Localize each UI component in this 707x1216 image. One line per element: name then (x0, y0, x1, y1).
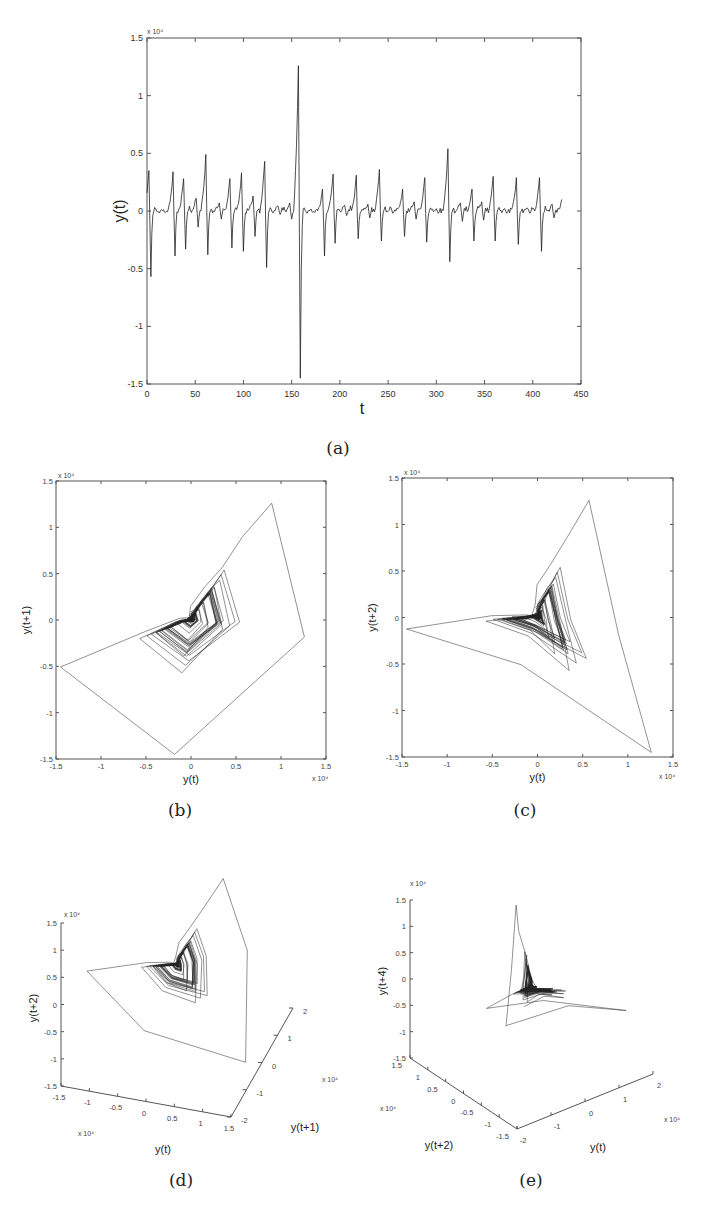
y-exponent-label: x 10⁴ (147, 28, 163, 35)
x-tick-label: 300 (429, 389, 444, 399)
y-axis-label: y(t+2) (366, 603, 378, 631)
x-axis-tick-label: 1.5 (224, 1124, 234, 1133)
y-tick-label: -1 (135, 321, 143, 331)
y-tick-label: -1.5 (127, 379, 143, 389)
y-axis-label: y(t+2) (425, 1139, 453, 1151)
z-axis-tick-label: 0 (402, 975, 406, 984)
trajectory (487, 905, 626, 1026)
x-tick-label: -1 (444, 760, 451, 769)
x-axis-label: y(t) (590, 1141, 606, 1153)
x-tick-label: 250 (381, 389, 396, 399)
z-axis-label: y(t+4) (376, 967, 388, 995)
y-tick-label: -1.5 (386, 753, 399, 762)
x-exponent-label: x 10⁴ (78, 1130, 94, 1137)
x-axis-tick-label: 0 (142, 1109, 146, 1118)
x-tick-label: -1 (98, 762, 105, 771)
z-axis-tick-label: 1 (53, 946, 57, 955)
x-exponent-label: x 10⁴ (664, 1116, 680, 1123)
x-tick-label: -0.5 (140, 762, 153, 771)
x-exponent-label: x 10⁴ (312, 775, 328, 782)
caption-c: (c) (514, 800, 537, 820)
y-tick-label: 0.5 (389, 567, 399, 576)
panel-e-3d-portrait: -1.5-1-0.500.511.5-2-1012-1.5-1-0.500.51… (376, 880, 680, 1153)
x-axis-label: y(t) (183, 773, 199, 785)
y-exponent-label: x 10⁴ (380, 1105, 396, 1112)
y-tick-label: 0 (395, 614, 399, 623)
z-axis-tick-label: 0.5 (47, 973, 57, 982)
x-axis-label: y(t) (155, 1143, 171, 1155)
z-axis-tick-label: -1 (50, 1055, 57, 1064)
y-tick-label: -0.5 (40, 662, 53, 671)
trajectory (61, 503, 305, 754)
y-tick-label: 0.5 (43, 570, 53, 579)
y-axis-tick-label: 0 (451, 1097, 455, 1106)
y-axis-label: y(t+1) (20, 606, 32, 634)
y-tick-label: 0 (138, 206, 143, 216)
series-line-y (147, 66, 562, 379)
x-tick-label: 450 (573, 389, 588, 399)
x-axis-tick-label: -1 (84, 1098, 91, 1107)
z-exponent-label: x 10⁴ (410, 880, 426, 887)
y-axis-tick-label: -1 (257, 1089, 264, 1098)
x-axis-tick-label: -1 (554, 1122, 561, 1131)
y-exponent-label: x 10⁴ (404, 469, 420, 476)
y-tick-label: 1.5 (389, 474, 399, 483)
z-axis-tick-label: -1.5 (44, 1082, 57, 1091)
y-axis-tick-label: 1 (416, 1073, 420, 1082)
y-axis-tick-label: 1 (288, 1034, 292, 1043)
y-axis-tick-label: -1 (484, 1120, 491, 1129)
y-axis-tick-label: 0 (272, 1062, 276, 1071)
x-tick-label: 1 (626, 760, 630, 769)
caption-a: (a) (326, 438, 349, 458)
caption-d: (d) (169, 1170, 193, 1190)
panel-d-3d-portrait: -1.5-1-0.500.511.5-1.5-1-0.500.511.5-2-1… (27, 879, 338, 1156)
x-tick-label: 0.5 (577, 760, 587, 769)
z-axis-tick-label: 0.5 (396, 949, 406, 958)
x-axis-tick-label: 1 (623, 1095, 627, 1104)
y-tick-label: -0.5 (127, 264, 143, 274)
figure-canvas: 050100150200250300350400450-1.5-1-0.500.… (0, 0, 707, 1216)
x-axis-label: t (360, 400, 365, 417)
z-axis-tick-label: 1.5 (47, 919, 57, 928)
y-axis-tick-label: 1.5 (392, 1061, 402, 1070)
x-axis-tick-label: -0.5 (109, 1103, 122, 1112)
z-axis-tick-label: -0.5 (44, 1028, 57, 1037)
x-tick-label: 100 (236, 389, 251, 399)
x-axis-tick-label: -1.5 (53, 1093, 66, 1102)
x-axis-tick-label: 0.5 (167, 1114, 177, 1123)
x-axis-label: y(t) (530, 771, 546, 783)
x-tick-label: 400 (525, 389, 540, 399)
z-axis-tick-label: -0.5 (393, 1001, 406, 1010)
z-axis-tick-label: 0 (53, 1001, 57, 1010)
y-tick-label: 0.5 (130, 148, 143, 158)
y-tick-label: 1.5 (43, 477, 53, 486)
y-tick-label: -0.5 (386, 660, 399, 669)
z-exponent-label: x 10⁴ (64, 911, 80, 918)
y-tick-label: 1 (138, 91, 143, 101)
y-tick-label: -1 (46, 709, 53, 718)
x-tick-label: 350 (477, 389, 492, 399)
x-tick-label: -0.5 (486, 760, 499, 769)
y-axis-tick-label: -1.5 (496, 1132, 509, 1141)
x-tick-label: 0.5 (231, 762, 241, 771)
x-tick-label: 150 (284, 389, 299, 399)
panel-b-phase-portrait: -1.5-1-0.500.511.5-1.5-1-0.500.511.5x 10… (20, 472, 331, 785)
caption-e: (e) (519, 1170, 542, 1190)
x-tick-label: 200 (332, 389, 347, 399)
x-tick-label: 0 (189, 762, 193, 771)
x-tick-label: 1 (279, 762, 283, 771)
x-tick-label: 0 (535, 760, 539, 769)
y-tick-label: 1 (49, 523, 53, 532)
y-tick-label: -1 (392, 707, 399, 716)
x-axis-tick-label: 1 (199, 1119, 203, 1128)
panel-c-phase-portrait: -1.5-1-0.500.511.5-1.5-1-0.500.511.5x 10… (366, 469, 678, 783)
x-exponent-label: x 10⁴ (659, 773, 675, 780)
panel-a-time-series: 050100150200250300350400450-1.5-1-0.500.… (111, 28, 589, 417)
x-tick-label: 1.5 (321, 762, 331, 771)
x-axis-tick-label: 0 (589, 1109, 593, 1118)
z-axis-tick-label: 1.5 (396, 896, 406, 905)
y-tick-label: -1.5 (40, 755, 53, 764)
y-axis-tick-label: 2 (303, 1007, 307, 1016)
x-tick-label: 50 (190, 389, 200, 399)
y-tick-label: 0 (49, 616, 53, 625)
